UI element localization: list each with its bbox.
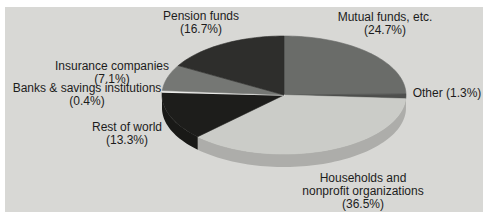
pie-slice-mutual-funds-etc — [284, 36, 406, 95]
label-other-name: Other (1.3%) — [413, 87, 482, 100]
label-households-nonprofit: Households and nonprofit organizations (… — [302, 172, 423, 211]
label-mutual-funds-value: (24.7%) — [338, 24, 433, 37]
label-mutual-funds: Mutual funds, etc. (24.7%) — [338, 11, 433, 37]
label-pension-funds: Pension funds (16.7%) — [163, 10, 239, 36]
page: { "figure": { "background_color": "#d8d8… — [0, 0, 488, 221]
label-rest-of-world: Rest of world (13.3%) — [92, 121, 162, 147]
label-households-nonprofit-value: (36.5%) — [302, 198, 423, 211]
label-banks-savings-institutions-value: (0.4%) — [13, 95, 162, 108]
label-rest-of-world-value: (13.3%) — [92, 134, 162, 147]
label-other: Other (1.3%) — [413, 87, 482, 100]
label-banks-savings-institutions: Banks & savings institutions (0.4%) — [13, 82, 162, 108]
label-pension-funds-value: (16.7%) — [163, 23, 239, 36]
